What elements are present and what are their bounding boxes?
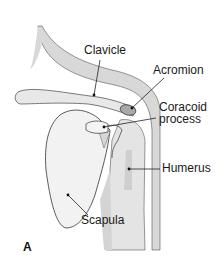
- label-humerus: Humerus: [162, 162, 211, 175]
- label-clavicle: Clavicle: [84, 44, 126, 57]
- label-acromion: Acromion: [153, 64, 204, 77]
- shoulder-anatomy-diagram: Clavicle Acromion Coracoid process Humer…: [0, 0, 223, 266]
- label-coracoid-line2: process: [159, 113, 201, 126]
- label-scapula: Scapula: [81, 214, 124, 227]
- panel-letter: A: [23, 240, 32, 254]
